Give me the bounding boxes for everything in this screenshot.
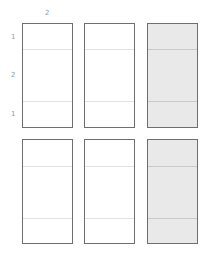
panel-r2-c3-shaded	[147, 139, 198, 244]
divider-line	[23, 101, 72, 102]
panel-r2-c2	[84, 139, 135, 244]
divider-line	[85, 49, 134, 50]
divider-line	[148, 218, 197, 219]
left-dimension-label-3: 1	[11, 110, 15, 118]
panel-r1-c3-shaded	[147, 23, 198, 128]
divider-line	[85, 101, 134, 102]
divider-line	[23, 166, 72, 167]
divider-line	[85, 218, 134, 219]
left-dimension-label-2: 2	[11, 71, 15, 79]
panel-r2-c1	[22, 139, 73, 244]
panel-r1-c1	[22, 23, 73, 128]
divider-line	[23, 218, 72, 219]
divider-line	[148, 166, 197, 167]
divider-line	[148, 101, 197, 102]
divider-line	[85, 166, 134, 167]
panel-r1-c2	[84, 23, 135, 128]
divider-line	[148, 49, 197, 50]
top-dimension-label: 2	[45, 9, 49, 17]
divider-line	[23, 49, 72, 50]
left-dimension-label-1: 1	[11, 33, 15, 41]
